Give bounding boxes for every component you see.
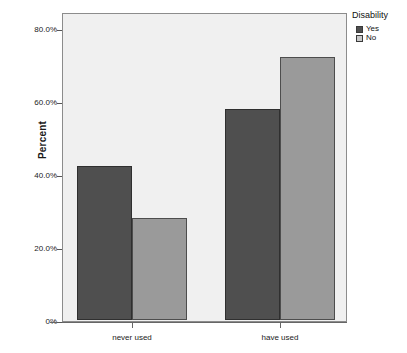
- legend-entry-yes: Yes: [352, 25, 407, 33]
- x-tick-label: never used: [77, 333, 187, 342]
- x-axis-line: [50, 322, 347, 323]
- y-tick-label: 40.0%: [17, 172, 57, 180]
- legend-swatch-icon: [356, 26, 363, 33]
- y-tick-label: 80.0%: [17, 26, 57, 34]
- x-tick-mark: [132, 322, 133, 328]
- x-tick-mark: [280, 322, 281, 328]
- bar-have-used-yes: [225, 109, 280, 320]
- bar-have-used-no: [280, 57, 335, 320]
- plot-inner: [63, 14, 346, 321]
- y-tick-label: 60.0%: [17, 99, 57, 107]
- y-tick-mark: [57, 249, 62, 250]
- plot-area: [62, 13, 347, 322]
- legend-entry-no: No: [352, 34, 407, 42]
- x-tick-label: have used: [225, 333, 335, 342]
- legend-title: Disability: [352, 10, 407, 20]
- legend-entry-label: Yes: [366, 25, 379, 33]
- legend-swatch-icon: [356, 35, 363, 42]
- y-tick-mark: [57, 30, 62, 31]
- chart-screenshot: Percent 80.0%60.0%40.0%20.0%0% never use…: [0, 0, 407, 353]
- y-axis-tick-labels: 80.0%60.0%40.0%20.0%0%: [16, 0, 57, 353]
- bar-never-used-yes: [77, 166, 132, 320]
- y-tick-mark: [57, 322, 62, 323]
- legend: Disability YesNo: [352, 10, 407, 43]
- y-tick-mark: [57, 176, 62, 177]
- legend-entries: YesNo: [352, 25, 407, 42]
- bar-never-used-no: [132, 218, 187, 320]
- y-tick-label: 20.0%: [17, 245, 57, 253]
- y-tick-mark: [57, 103, 62, 104]
- legend-entry-label: No: [366, 34, 376, 42]
